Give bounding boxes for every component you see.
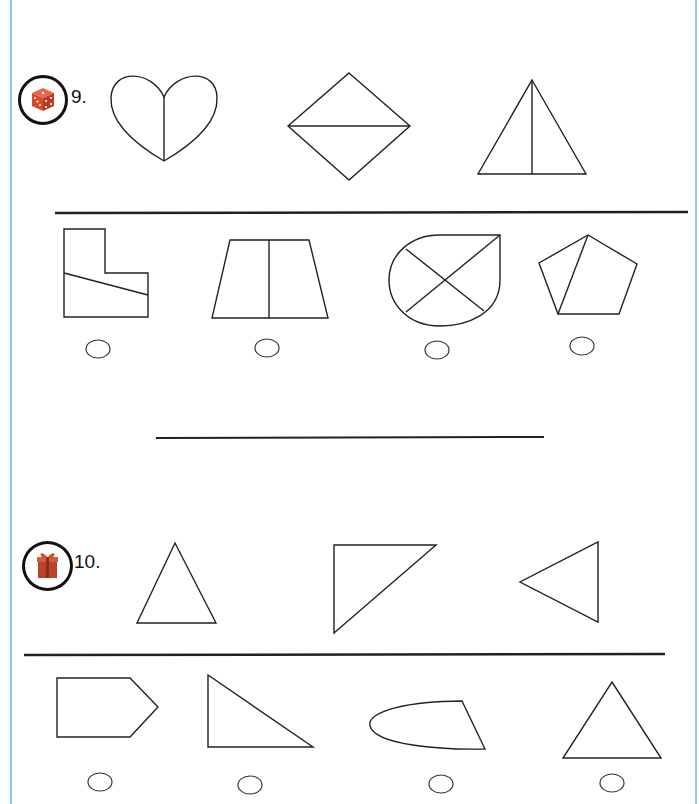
- q10-option-3-shape: [370, 701, 485, 749]
- q10-option-1-shape: [57, 678, 158, 737]
- q10-option-4-radio[interactable]: [600, 774, 624, 792]
- q9-divider: [55, 212, 688, 213]
- q9-option-2-shape: [212, 240, 328, 318]
- q9-option-3-shape: [389, 235, 500, 326]
- q9-option-4-shape: [539, 235, 637, 314]
- q10-option-4-shape: [563, 682, 661, 758]
- q9-ref-rhombus: [288, 73, 410, 180]
- q10-option-3-radio[interactable]: [429, 775, 453, 793]
- q10-option-1-radio[interactable]: [88, 773, 112, 791]
- q10-ref-triangle-isosceles: [137, 543, 216, 623]
- q9-ref-triangle: [478, 80, 586, 174]
- q9-ref-heart: [111, 76, 217, 161]
- q9-option-2-radio[interactable]: [255, 339, 279, 357]
- q9-option-3-radio[interactable]: [425, 341, 449, 359]
- q10-ref-triangle-left: [520, 542, 598, 622]
- q10-option-2-radio[interactable]: [238, 776, 262, 794]
- q9-option-1-radio[interactable]: [86, 340, 110, 358]
- q10-option-2-shape: [208, 675, 313, 747]
- q9-option-4-radio[interactable]: [570, 337, 594, 355]
- q9-option-1-shape: [64, 229, 148, 317]
- worksheet-canvas: [0, 0, 699, 804]
- q10-divider: [24, 654, 665, 655]
- q10-ref-triangle-right: [334, 545, 436, 633]
- middle-separator: [156, 437, 544, 438]
